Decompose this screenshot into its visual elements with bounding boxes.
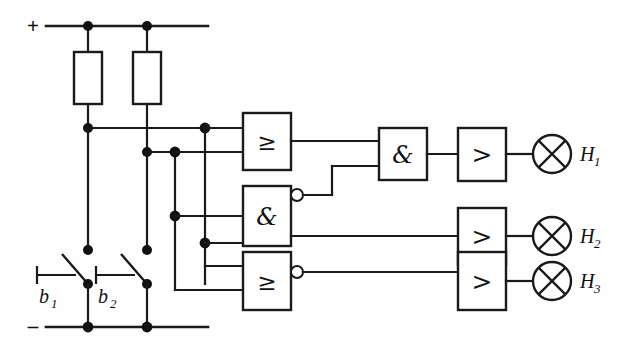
junction-b2-top [142, 245, 152, 255]
switch-b1-blade[interactable] [62, 254, 88, 284]
junction-minus-b1 [83, 322, 94, 333]
or-gate-1-glyph: ≥ [257, 129, 276, 155]
negative-rail-label: – [27, 314, 39, 338]
nor-gate-1-inversion-bubble [291, 266, 303, 278]
resistor-1 [74, 52, 102, 104]
nand-gate-1-glyph: & [256, 203, 277, 231]
output-channel-3: > H 3 [458, 252, 601, 310]
switch-b1-group[interactable]: b 1 [37, 254, 93, 332]
b1-bus-group [200, 123, 211, 284]
lamp-h2-subscript: 2 [594, 236, 601, 251]
nand-gate-1-inversion-bubble [291, 189, 303, 201]
b2-bus-group [170, 147, 243, 290]
positive-rail-label: + [27, 14, 39, 38]
switch-b1-subscript: 1 [51, 296, 58, 311]
switch-b2-label: b [98, 285, 108, 307]
switch-b2-subscript: 2 [110, 296, 117, 311]
and-gate-1-glyph: & [392, 141, 413, 169]
switch-b2-blade[interactable] [121, 254, 147, 284]
circuit-diagram: + – [0, 0, 634, 349]
lamp-h1-subscript: 1 [594, 154, 601, 169]
output-channel-1: > H 1 [458, 128, 601, 181]
negative-rail-group: – [27, 314, 208, 338]
amplifier-3-glyph: > [472, 267, 493, 296]
and-gate-1-group: & [379, 128, 458, 180]
nor-gate-1-glyph: ≥ [257, 269, 276, 295]
resistor-2 [133, 52, 161, 104]
positive-rail-group: + [27, 14, 208, 38]
junction-minus-b2 [142, 322, 153, 333]
switch-b2-group[interactable]: b 2 [96, 254, 152, 332]
amplifier-2-glyph: > [472, 222, 493, 251]
amplifier-1-glyph: > [472, 140, 493, 169]
switch-b1-label: b [39, 285, 49, 307]
resistor-1-branch [74, 21, 102, 255]
lamp-h3-subscript: 3 [593, 281, 601, 296]
nor-gate-1-group: ≥ [205, 252, 458, 310]
junction-b1-top [83, 245, 93, 255]
junction-plus-r2 [142, 21, 152, 31]
resistor-2-branch [133, 21, 161, 255]
junction-plus-r1 [83, 21, 93, 31]
circuit-svg: + – [0, 0, 634, 349]
